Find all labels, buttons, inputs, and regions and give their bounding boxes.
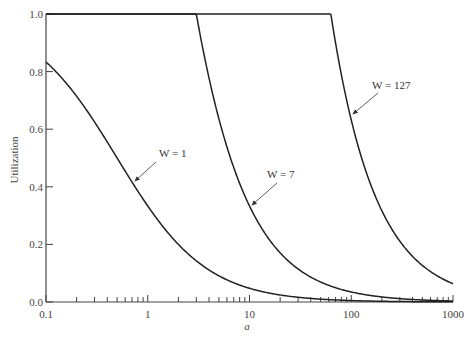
axes — [46, 14, 453, 302]
curves — [46, 14, 453, 302]
y-tick-label: 1.0 — [29, 8, 43, 20]
x-tick-label: 1000 — [442, 308, 465, 320]
curve-w-127 — [46, 14, 453, 284]
y-axis-title: Utilization — [8, 136, 20, 184]
y-tick-label: 0.8 — [29, 66, 43, 78]
x-axis-title: a — [244, 320, 250, 332]
x-tick-labels: 0.11101001000 — [39, 308, 464, 320]
y-tick-label: 0.0 — [29, 296, 43, 308]
curve-w-7 — [46, 14, 453, 301]
y-ticks — [46, 14, 53, 302]
y-tick-labels: 0.00.20.40.60.81.0 — [29, 8, 43, 308]
y-tick-label: 0.4 — [29, 181, 43, 193]
annotation-w-1-label: W = 1 — [159, 147, 186, 159]
y-tick-label: 0.6 — [29, 123, 43, 135]
utilization-chart: 0.11101001000 0.00.20.40.60.81.0 a Utili… — [0, 0, 474, 338]
annotation-w-7-label: W = 7 — [267, 168, 295, 180]
x-tick-label: 1 — [145, 308, 151, 320]
arrow-icon — [252, 183, 277, 205]
y-tick-label: 0.2 — [29, 238, 43, 250]
x-tick-label: 100 — [343, 308, 360, 320]
arrow-icon — [135, 162, 156, 181]
x-tick-label: 0.1 — [39, 308, 53, 320]
annotation-w-127-label: W = 127 — [372, 79, 411, 91]
annotation-w-1: W = 1 — [135, 147, 186, 181]
curve-w-1 — [46, 62, 453, 302]
x-tick-label: 10 — [244, 308, 256, 320]
annotation-w-7: W = 7 — [252, 168, 295, 205]
annotations: W = 1 W = 7 W = 127 — [135, 79, 411, 205]
arrow-icon — [353, 93, 378, 114]
annotation-w-127: W = 127 — [353, 79, 411, 114]
